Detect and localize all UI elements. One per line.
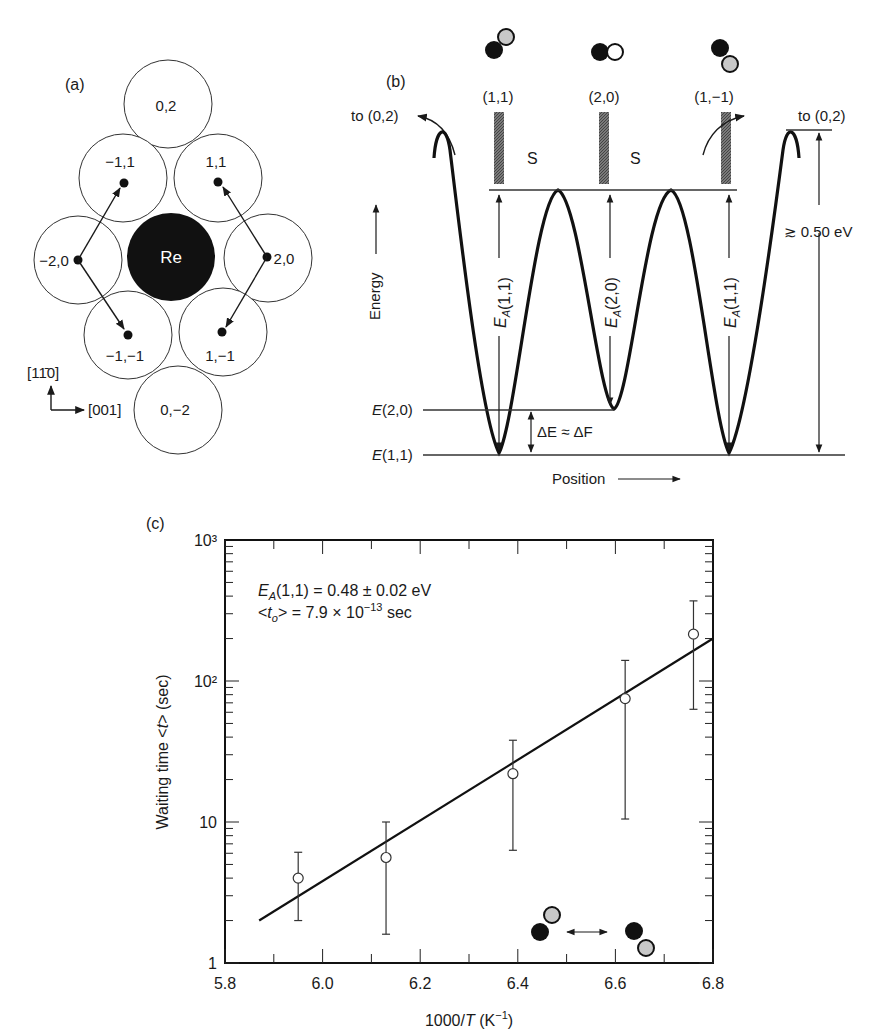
e11-label: E(1,1) bbox=[372, 446, 413, 463]
outer-barrier-label: ≳ 0.50 eV bbox=[784, 223, 852, 240]
y-axis-label: Waiting time <t> (sec) bbox=[154, 674, 171, 829]
to-02-left-label: to (0,2) bbox=[351, 107, 399, 124]
axis-right-label: [001] bbox=[88, 401, 121, 418]
e20-label: E(2,0) bbox=[372, 401, 413, 418]
annotation-t0: <to> = 7.9 × 10−13 sec bbox=[258, 601, 412, 624]
panel-a-label: (a) bbox=[65, 76, 85, 93]
config-label: (1,−1) bbox=[694, 88, 734, 105]
y-tick-label: 1 bbox=[208, 955, 217, 972]
barrier-arrows bbox=[499, 133, 819, 452]
saddle-label: S bbox=[527, 150, 538, 167]
y-tick-label: 10³ bbox=[194, 532, 218, 549]
site-label: 2,0 bbox=[274, 250, 295, 267]
hatched-bar bbox=[494, 112, 504, 184]
data-point bbox=[293, 852, 303, 920]
site-label: 0,2 bbox=[156, 97, 177, 114]
x-tick-label: 5.8 bbox=[214, 975, 236, 992]
y-tick-label: 10 bbox=[199, 814, 217, 831]
site-label: −1,1 bbox=[105, 153, 135, 170]
dimer-hop-icon bbox=[531, 907, 654, 956]
x-axis-label: 1000/T (K−1) bbox=[425, 1009, 513, 1029]
site-label: −1,−1 bbox=[106, 347, 144, 364]
ea11-label-left: EAE_A(1,1)(1,1) bbox=[492, 277, 513, 328]
data-series bbox=[259, 601, 713, 934]
panel-b-label: (b) bbox=[386, 73, 406, 90]
site-label: 1,−1 bbox=[205, 347, 235, 364]
re-label: Re bbox=[160, 248, 182, 267]
panel-c-label: (c) bbox=[146, 515, 165, 532]
dimer-icon-1-m1 bbox=[711, 39, 738, 72]
dimer-icon-2-0 bbox=[591, 43, 623, 61]
x-tick-label: 6.0 bbox=[311, 975, 333, 992]
data-point bbox=[508, 740, 518, 850]
panel-c: (c) 5.86.06.26.46.66.811010²10³ EA(1,1) … bbox=[146, 515, 724, 1029]
site-label: 0,−2 bbox=[160, 401, 190, 418]
hatched-bar bbox=[599, 112, 609, 184]
dimer-icon-1-1 bbox=[485, 29, 514, 59]
x-tick-label: 6.8 bbox=[702, 975, 724, 992]
energy-axis-label: Energy bbox=[366, 272, 383, 320]
config-label: (1,1) bbox=[483, 88, 514, 105]
position-axis-label: Position bbox=[552, 470, 605, 487]
panel-a: (a) Re 0,2 −1,1 1,1 −2,0 2,0 −1,−1 1,−1 … bbox=[27, 60, 312, 454]
saddle-label: S bbox=[630, 150, 641, 167]
figure: (a) Re 0,2 −1,1 1,1 −2,0 2,0 −1,−1 1,−1 … bbox=[0, 0, 889, 1036]
to-02-right-label: to (0,2) bbox=[798, 107, 846, 124]
site-label: 1,1 bbox=[206, 153, 227, 170]
atom-m1-1 bbox=[79, 134, 167, 222]
fit-line bbox=[259, 639, 713, 921]
x-tick-label: 6.4 bbox=[507, 975, 529, 992]
panel-b: (b) (1,1) (2,0) (1,−1) S S to (0,2) to (… bbox=[351, 29, 852, 487]
site-label: −2,0 bbox=[39, 252, 69, 269]
config-label: (2,0) bbox=[589, 88, 620, 105]
data-point bbox=[688, 601, 698, 709]
delta-label: ΔE ≈ ΔF bbox=[537, 423, 593, 440]
y-tick-label: 10² bbox=[194, 673, 218, 690]
x-tick-label: 6.6 bbox=[604, 975, 626, 992]
data-point bbox=[620, 660, 630, 819]
annotation-ea: EA(1,1) = 0.48 ± 0.02 eV bbox=[258, 582, 431, 602]
x-tick-label: 6.2 bbox=[409, 975, 431, 992]
axis-up-label: [11̄0] bbox=[27, 364, 59, 381]
